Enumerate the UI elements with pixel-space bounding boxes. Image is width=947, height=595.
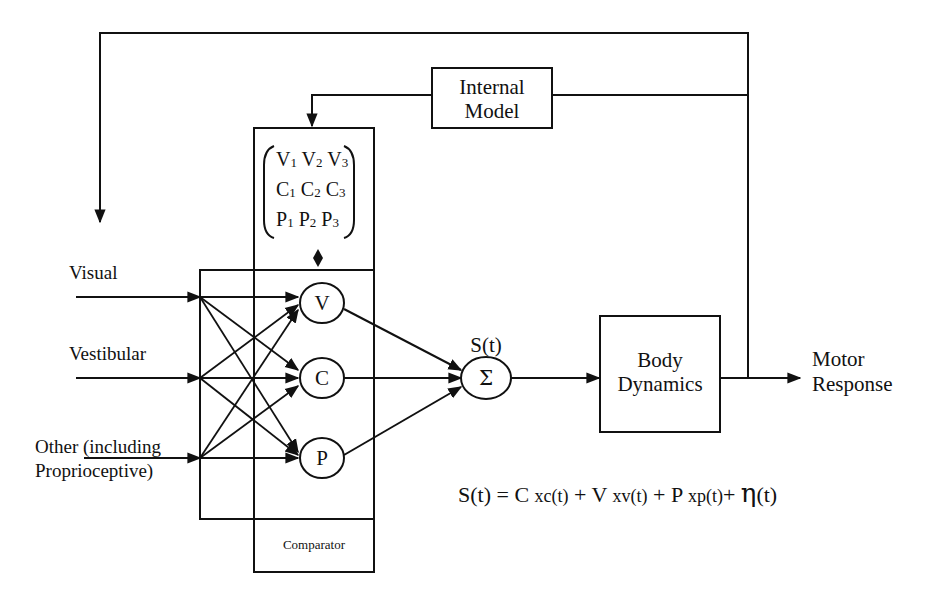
weight-matrix: V1 V2 V3 C1 C2 C3 P1 P2 P3 (276, 146, 348, 236)
output-label-line2: Response (812, 372, 893, 396)
internal-model-output-line (312, 95, 432, 126)
output-label-line1: Motor (812, 347, 865, 371)
outer-feedback-line (100, 33, 748, 378)
other-label-line1: Other (including (35, 436, 161, 458)
weight-label-p: P (300, 436, 344, 480)
matrix-row-c: C1 C2 C3 (276, 176, 348, 206)
fusion-equation: S(t) = C xc(t) + V xv(t) + P xp(t)+ η(t) (458, 478, 777, 508)
sigma-icon: Σ (464, 356, 508, 400)
matrix-row-v: V1 V2 V3 (276, 146, 348, 176)
internal-model-line1: Internal (432, 75, 552, 99)
weight-label-c: C (300, 356, 344, 400)
body-dynamics-line1: Body (600, 348, 720, 372)
matrix-row-p: P1 P2 P3 (276, 206, 348, 236)
eta-symbol: η (741, 478, 757, 508)
body-dynamics-line2: Dynamics (600, 372, 720, 396)
internal-model-line2: Model (432, 99, 552, 123)
comparator-label: Comparator (254, 537, 374, 553)
vestibular-label: Vestibular (69, 343, 146, 365)
matrix-left-bracket (264, 146, 274, 238)
other-label-line2: Proprioceptive) (35, 460, 153, 482)
weight-label-v: V (300, 281, 344, 325)
bidirectional-arrow-icon (313, 249, 323, 267)
visual-label: Visual (69, 262, 117, 284)
signal-label: S(t) (456, 333, 516, 357)
